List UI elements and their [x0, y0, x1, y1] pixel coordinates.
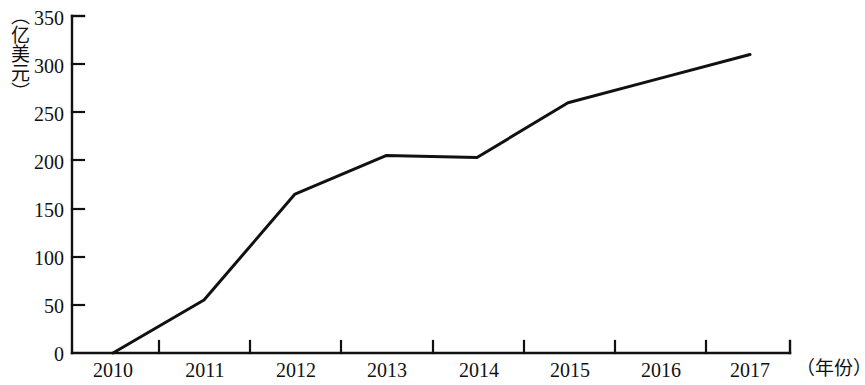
line-chart: （亿美元） 350 300 250 200 150 100 50 0 2010 … — [0, 0, 865, 385]
y-axis-ticks — [72, 64, 84, 305]
plot-area — [0, 0, 865, 385]
x-axis-ticks — [159, 341, 706, 353]
axis-lines — [72, 16, 790, 353]
data-line-series-1 — [113, 55, 750, 354]
